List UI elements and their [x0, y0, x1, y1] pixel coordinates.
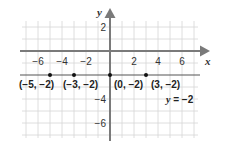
- x-tick-label: 6: [179, 56, 185, 67]
- coordinate-graph: y x −6 −4 −2 2 4 6 2 −4 −6 (−5, −2) (−3,…: [0, 0, 232, 150]
- point-3-neg2: [144, 73, 148, 77]
- x-tick-label: 4: [155, 56, 161, 67]
- y-axis-label: y: [95, 6, 102, 18]
- point-label: (0, −2): [114, 79, 143, 90]
- x-tick-label: −6: [32, 56, 44, 67]
- point-label: (3, −2): [151, 79, 180, 90]
- x-tick-label: 2: [131, 56, 137, 67]
- point-label: (−5, −2): [19, 79, 54, 90]
- equation-value: = −2: [170, 94, 193, 105]
- y-tick-label: −4: [95, 94, 107, 105]
- point-label: (−3, −2): [63, 79, 98, 90]
- y-axis-arrow-icon: [105, 8, 116, 18]
- y-tick-label: −6: [95, 118, 107, 129]
- x-axis: [20, 46, 210, 57]
- equation-label: y = −2: [165, 94, 194, 105]
- x-tick-label: −2: [80, 56, 92, 67]
- point-0-neg2: [108, 73, 112, 77]
- point-neg5-neg2: [48, 73, 52, 77]
- y-tick-label: 2: [100, 22, 106, 33]
- x-tick-label: −4: [56, 56, 68, 67]
- x-axis-label: x: [204, 55, 211, 67]
- point-neg3-neg2: [72, 73, 76, 77]
